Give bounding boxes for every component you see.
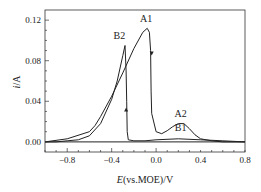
peak-label-b1: B1 [175,122,187,133]
y-tick-label: 0.08 [25,56,41,66]
y-axis-title: i/A [11,75,22,89]
cyclic-voltammogram-chart: −0.8−0.40.00.40.8 0.000.040.080.12 A1B2A… [0,0,261,192]
axes-box [45,10,245,152]
y-tick-label: 0.04 [25,96,41,106]
plot-area [45,28,245,142]
peak-label-b2: B2 [114,30,126,41]
x-tick-label: 0.4 [195,155,207,165]
series-line-0 [45,28,245,142]
x-axis-ticks: −0.8−0.40.00.40.8 [45,148,251,165]
x-tick-label: −0.8 [59,155,76,165]
series-line-1 [45,46,245,142]
x-tick-label: 0.0 [150,155,162,165]
x-tick-label: 0.8 [239,155,251,165]
x-axis-title: E(vs.MOE)/V [116,174,174,186]
sweep-direction-arrow-icon [124,107,128,111]
x-tick-label: −0.4 [104,155,121,165]
y-axis-ticks: 0.000.040.080.12 [25,15,49,147]
y-tick-label: 0.12 [25,15,41,25]
y-tick-label: 0.00 [25,137,41,147]
peak-annotations: A1B2A2B1 [114,13,187,133]
peak-label-a1: A1 [140,13,152,24]
peak-label-a2: A2 [174,108,186,119]
plot-frame [45,10,245,152]
